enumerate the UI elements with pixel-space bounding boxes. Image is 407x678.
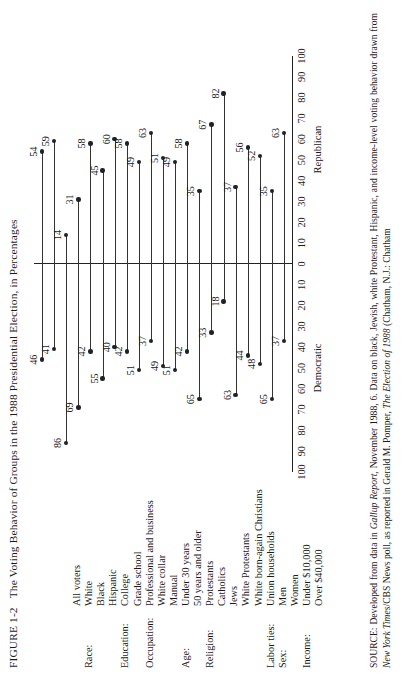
axis-name-democratic: Democratic [312,344,323,393]
page-title: The Voting Behavior of Groups in the 198… [7,219,19,598]
row-label: Men [278,587,288,606]
source-italic-2: New York Times [381,607,392,669]
tick-label-republican: 100 [297,48,307,63]
data-point-dem [246,353,250,357]
value-label-dem: 33 [198,328,208,338]
data-point-dem [173,368,177,372]
value-label-rep: 35 [186,186,196,196]
row-segment [127,143,128,351]
value-label-dem: 69 [65,402,75,412]
row-segment [151,133,152,341]
row-segment [284,133,285,341]
row-segment [248,148,249,356]
tick-label-republican: 90 [297,72,307,82]
row-segment [175,162,176,370]
data-point-rep [100,168,104,172]
value-label-dem: 48 [247,359,257,369]
source-prefix: SOURCE: [368,627,379,668]
tick-label-republican: 60 [297,134,307,144]
data-point-rep [221,91,225,95]
value-label-rep: 49 [162,157,172,167]
row-segment [236,187,237,395]
row-segment [187,143,188,351]
row-label: White collar [157,555,167,606]
value-label-rep: 58 [77,138,87,148]
tick-label-republican: 20 [297,217,307,227]
row-label: Union households [266,531,276,606]
source-note: SOURCE: Developed from data in Gallup Re… [368,13,393,668]
axis-name-republican: Republican [312,126,323,174]
row-label: Professional and business [145,500,155,606]
value-label-rep: 58 [174,138,184,148]
tick-label-democratic: 10 [297,280,307,290]
source-text-3: /CBS News poll, as reported in Gerald M.… [381,409,392,607]
row-label: White Protestants [241,533,251,606]
row-segment [115,139,116,347]
value-label-rep: 45 [90,165,100,175]
category-label: Race: [84,645,94,668]
value-label-dem: 37 [271,336,281,346]
data-point-rep [76,197,80,201]
figure-title-line: FIGURE 1-2The Voting Behavior of Groups … [7,219,19,668]
data-point-rep [40,149,44,153]
value-label-dem: 65 [259,394,269,404]
data-point-rep [185,141,189,145]
data-point-dem [197,397,201,401]
source-italic-3: The Election of 1988 [381,328,392,408]
value-label-rep: 49 [126,157,136,167]
tick-label-democratic: 30 [297,321,307,331]
source-italic-1: Gallup Report, [368,471,379,529]
tick-label-republican: 10 [297,238,307,248]
source-text-4: (Chatham, N.J.: Chatham [381,228,392,328]
category-label: Income: [302,634,312,668]
data-point-rep [233,185,237,189]
tick-label-democratic: 40 [297,342,307,352]
row-segment [224,93,225,301]
row-label: Under $10,000 [302,544,312,606]
data-point-dem [282,339,286,343]
chart: Race:Education:Occupation:Age:Religion:L… [34,56,350,668]
figure-label: FIGURE 1-2 [7,607,19,668]
value-label-dem: 44 [235,350,245,360]
value-label-rep: 58 [114,138,124,148]
row-label: Under 30 years [181,543,191,606]
data-point-rep [209,122,213,126]
row-label: Over $40,000 [314,549,324,606]
tick-label-republican: 30 [297,196,307,206]
data-point-rep [125,141,129,145]
tick-label-democratic: 90 [297,446,307,456]
value-label-rep: 37 [223,182,233,192]
value-label-rep: 31 [65,194,75,204]
value-label-dem: 42 [114,346,124,356]
value-label-rep: 35 [259,186,269,196]
data-point-dem [52,347,56,351]
data-point-dem [233,393,237,397]
category-label: Sex: [278,650,288,668]
value-label-rep: 63 [138,128,148,138]
data-point-rep [88,141,92,145]
tick-label-democratic: 80 [297,425,307,435]
tick-label-democratic: 60 [297,384,307,394]
value-label-rep: 67 [198,120,208,130]
row-segment [42,152,43,360]
tick-label-republican: 70 [297,113,307,123]
value-label-rep: 59 [41,136,51,146]
data-point-rep [149,131,153,135]
data-point-dem [209,330,213,334]
row-label: Hispanic [108,569,118,606]
value-label-rep: 60 [102,134,112,144]
value-label-rep: 54 [29,147,39,157]
row-segment [54,141,55,349]
tick-label-republican: 80 [297,92,307,102]
data-point-dem [40,357,44,361]
value-label-rep: 63 [271,128,281,138]
category-label: Religion: [205,630,215,668]
value-label-dem: 51 [126,365,136,375]
value-label-dem: 41 [41,344,51,354]
row-segment [78,200,79,408]
data-point-dem [76,405,80,409]
tick-label-republican: 40 [297,176,307,186]
row-label: Women [290,574,300,606]
figure-page: FIGURE 1-2The Voting Behavior of Groups … [0,0,407,678]
row-label: Manual [169,575,179,606]
